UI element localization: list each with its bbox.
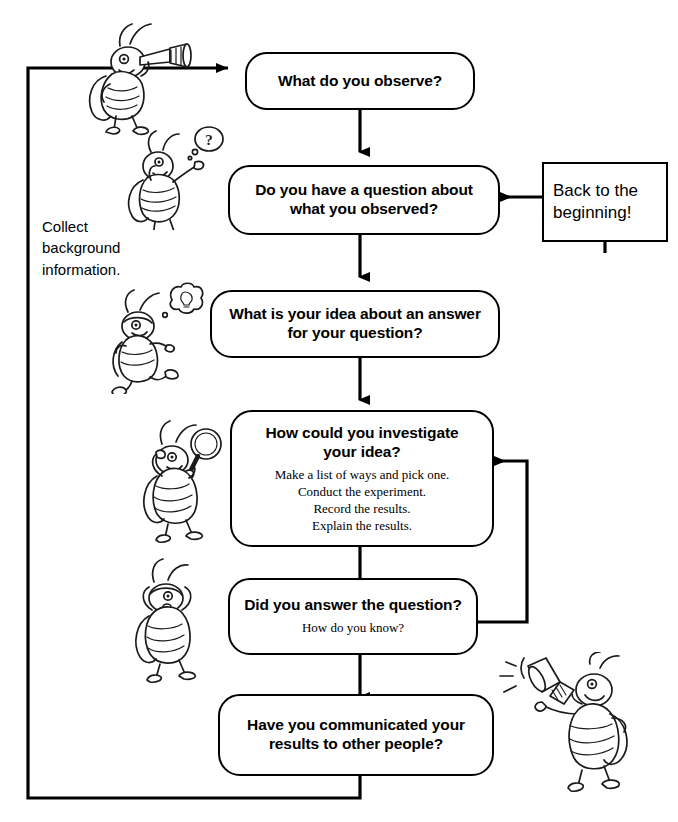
node-restart-label: Back to the beginning! [553,180,638,224]
node-answer-title: Did you answer the question? [244,596,462,615]
insect-with-magnifying-glass-illustration [132,418,250,550]
node-investigate[interactable]: How could you investigate your idea? Mak… [230,410,494,547]
svg-text:?: ? [205,132,213,148]
node-restart[interactable]: Back to the beginning! [542,162,668,242]
insect-with-question-mark-illustration: ? [113,122,241,230]
node-question[interactable]: Do you have a question about what you ob… [228,165,500,235]
node-investigate-title: How could you investigate your idea? [266,424,459,462]
node-question-title: Do you have a question about what you ob… [255,181,473,219]
node-observe[interactable]: What do you observe? [245,52,475,110]
insect-with-megaphone-illustration [486,652,652,810]
insect-running-with-idea-bubble-illustration [110,282,238,394]
flowchart-page: What do you observe? Do you have a quest… [0,0,678,822]
node-communicate[interactable]: Have you communicated your results to ot… [218,694,494,776]
insect-with-telescope-illustration [58,18,208,136]
insect-standing-thinking-illustration [122,556,240,688]
node-hypothesis[interactable]: What is your idea about an answer for yo… [210,290,500,358]
node-hypothesis-title: What is your idea about an answer for yo… [229,305,481,343]
node-answer-sub: How do you know? [302,619,404,636]
node-communicate-title: Have you communicated your results to ot… [247,716,465,754]
node-observe-title: What do you observe? [278,72,442,91]
node-answer[interactable]: Did you answer the question? How do you … [228,578,478,655]
node-investigate-steps: Make a list of ways and pick one. Conduc… [275,466,450,535]
